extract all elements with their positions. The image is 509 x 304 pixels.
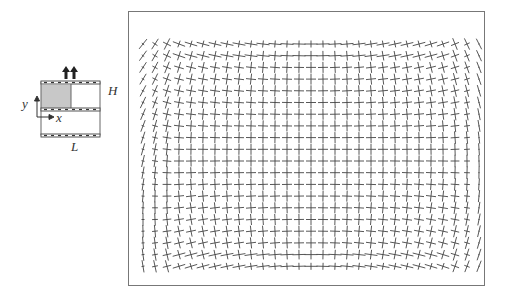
vector-field-plot — [0, 0, 509, 304]
cross-glyphs — [139, 38, 482, 272]
